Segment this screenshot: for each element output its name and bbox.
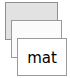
card-front[interactable]: mat: [17, 38, 67, 76]
card-front-label: mat: [27, 51, 57, 66]
card-stack: mat: [0, 0, 70, 78]
